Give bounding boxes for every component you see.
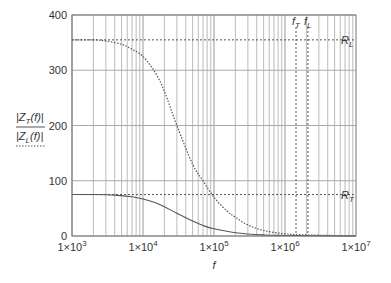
x-tick-label: 1×106 xyxy=(270,239,300,253)
label-RL: RL xyxy=(341,34,353,49)
x-tick-label: 1×107 xyxy=(341,239,371,253)
x-axis-ticks: 1×1031×1041×1051×1061×107 xyxy=(57,239,371,253)
y-axis-legend: |ZT(f)||ZL(f)| xyxy=(16,111,45,146)
legend-zt-label: |ZT(f)| xyxy=(16,111,44,126)
legend-zl-label: |ZL(f)| xyxy=(16,130,43,145)
x-tick-label: 1×103 xyxy=(57,239,87,253)
x-tick-label: 1×105 xyxy=(199,239,229,253)
x-axis-label: f xyxy=(212,259,216,271)
y-axis-ticks: 0100200300400 xyxy=(49,9,67,242)
y-tick-label: 100 xyxy=(49,175,67,187)
y-tick-label: 300 xyxy=(49,64,67,76)
y-tick-label: 400 xyxy=(49,9,67,21)
grid-lines xyxy=(72,15,356,236)
label-fL: fL xyxy=(304,15,312,30)
reference-labels: RLRTfTfL xyxy=(292,15,355,204)
x-tick-label: 1×104 xyxy=(128,239,158,253)
y-tick-label: 200 xyxy=(49,120,67,132)
impedance-chart: 0100200300400 1×1031×1041×1051×1061×107 … xyxy=(0,0,391,283)
label-fT: fT xyxy=(292,15,301,30)
